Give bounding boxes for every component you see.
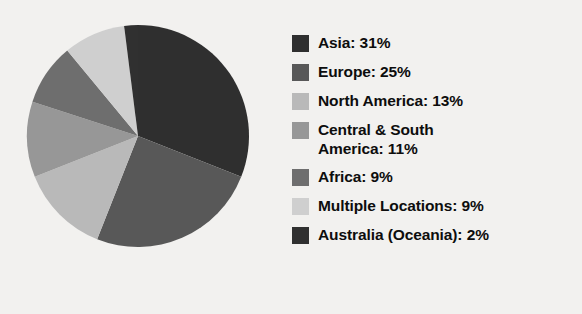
chart-legend: Asia: 31%Europe: 25%North America: 13%Ce… [292,33,576,254]
legend-color-swatch [292,198,309,215]
legend-color-swatch [292,169,309,186]
legend-color-swatch [292,93,309,110]
pie-chart-figure: Asia: 31%Europe: 25%North America: 13%Ce… [0,0,582,314]
legend-item-label: North America: 13% [318,91,463,110]
legend-item-label: Europe: 25% [318,62,411,81]
legend-item: Multiple Locations: 9% [292,196,576,215]
legend-item: Asia: 31% [292,33,576,52]
legend-item: Australia (Oceania): 2% [292,225,576,244]
pie-chart [26,24,250,248]
legend-color-swatch [292,227,309,244]
legend-item-label: Africa: 9% [318,167,393,186]
legend-item: Europe: 25% [292,62,576,81]
legend-item-label: Asia: 31% [318,33,390,52]
legend-item-label: Multiple Locations: 9% [318,196,484,215]
legend-color-swatch [292,122,309,139]
legend-color-swatch [292,35,309,52]
legend-item-label: Central & South America: 11% [318,120,434,158]
pie-svg [26,24,250,248]
legend-item: Africa: 9% [292,167,576,186]
legend-item-label: Australia (Oceania): 2% [318,225,489,244]
pie-slice-group [27,25,249,247]
legend-item: North America: 13% [292,91,576,110]
legend-item: Central & South America: 11% [292,120,576,158]
legend-color-swatch [292,64,309,81]
